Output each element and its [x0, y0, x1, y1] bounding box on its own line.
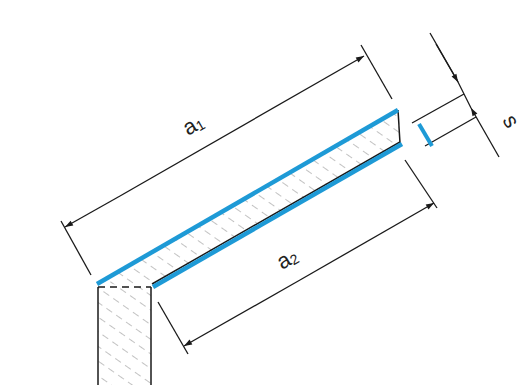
- wall-support: [98, 287, 151, 385]
- svg-text:s: s: [498, 110, 525, 132]
- label-s: s: [498, 110, 525, 132]
- dimension-diagram: a1 a2 s: [0, 0, 530, 391]
- top-surface-highlight: [97, 110, 398, 284]
- svg-text:a2: a2: [272, 243, 302, 275]
- thickness-highlight: [419, 124, 432, 146]
- bottom-surface-highlight: [153, 144, 402, 287]
- dimension-s: s: [412, 33, 525, 157]
- svg-text:a1: a1: [178, 109, 208, 141]
- inclined-slab: [97, 110, 402, 287]
